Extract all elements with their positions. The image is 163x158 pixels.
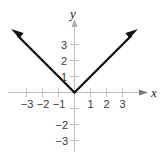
- graph-figure: −3 −2 −1 1 2 3 3 2 1 −2 −3 y x: [0, 0, 163, 158]
- x-tick-label-1: 1: [84, 99, 97, 110]
- left-ray-arrowhead: [11, 29, 24, 39]
- coordinate-plane-svg: [0, 0, 163, 158]
- right-ray-arrowhead: [126, 29, 139, 39]
- y-axis-label: y: [70, 7, 76, 20]
- x-tick-label-neg1: −1: [49, 99, 69, 110]
- x-tick-label-2: 2: [100, 99, 113, 110]
- y-tick-label-1: 1: [54, 72, 67, 83]
- x-axis-arrowhead: [139, 90, 148, 96]
- y-tick-label-neg3: −3: [48, 136, 68, 147]
- x-tick-label-3: 3: [116, 99, 129, 110]
- y-tick-label-neg2: −2: [48, 120, 68, 131]
- y-tick-label-2: 2: [54, 56, 67, 67]
- x-axis-label: x: [151, 86, 157, 99]
- y-tick-label-3: 3: [54, 40, 67, 51]
